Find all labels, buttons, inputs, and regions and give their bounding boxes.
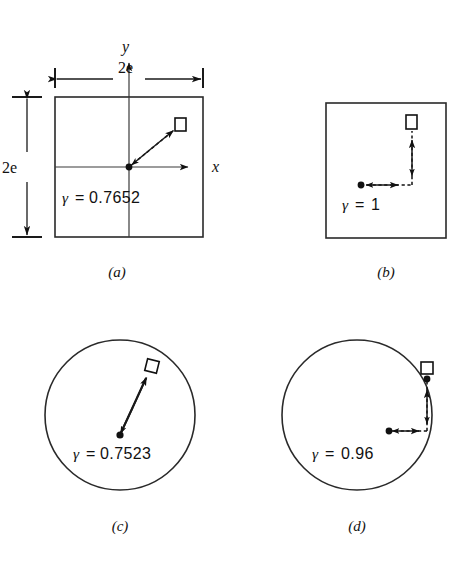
panel-a-dim-height-label: 2e xyxy=(2,159,17,176)
panel-c-tolerance-circle xyxy=(45,340,195,490)
panel-d-tolerance-circle xyxy=(282,340,432,490)
panel-b: γ = 1 (b) xyxy=(326,103,446,281)
panel-c: γ = 0.7523 (c) xyxy=(45,340,195,535)
panel-b-caption: (b) xyxy=(377,264,395,281)
panel-c-arrowhead-in xyxy=(121,407,134,434)
panel-a-gamma-label: γ = 0.7652 xyxy=(62,189,140,206)
figure-root: x y 2e 2e γ = 0.7652 (a) xyxy=(0,0,470,572)
panel-a-gamma-value: 0.7652 xyxy=(89,189,140,206)
panel-a-arrowhead-out xyxy=(152,131,174,149)
panel-c-gamma-label: γ = 0.7523 xyxy=(73,445,151,462)
panel-c-gamma-value: 0.7523 xyxy=(100,445,151,462)
panel-c-vector xyxy=(120,378,147,436)
panel-c-caption: (c) xyxy=(112,518,129,535)
panel-a-target-square xyxy=(175,118,186,131)
panel-d-gamma-equals: = xyxy=(325,445,335,462)
panel-b-vector xyxy=(361,131,412,185)
panel-a-arrowhead-in xyxy=(132,148,153,165)
panel-b-gamma-value: 1 xyxy=(371,196,380,213)
panel-d-gamma-symbol: γ xyxy=(312,445,319,462)
panel-b-gamma-equals: = xyxy=(355,196,365,213)
panel-d-vector xyxy=(389,382,427,431)
panel-c-origin-dot xyxy=(116,431,123,438)
panel-b-target-square xyxy=(406,115,417,129)
panel-b-origin-dot xyxy=(358,182,365,189)
panel-c-target-square xyxy=(145,359,160,374)
panel-a-dim-width-label: 2e xyxy=(118,59,133,76)
panel-c-arrowhead-out xyxy=(133,378,147,408)
panel-d-target-dot xyxy=(424,376,431,383)
panel-a-gamma-symbol: γ xyxy=(62,189,69,206)
panel-a-y-axis-label: y xyxy=(120,38,130,56)
panel-a-caption: (a) xyxy=(108,264,126,281)
panel-d-target-square xyxy=(421,362,433,374)
panel-d-caption: (d) xyxy=(348,518,366,535)
panel-a: x y 2e 2e γ = 0.7652 (a) xyxy=(2,38,219,281)
panel-b-gamma-symbol: γ xyxy=(342,196,349,213)
panel-c-gamma-equals: = xyxy=(86,445,96,462)
panel-d-gamma-label: γ = 0.96 xyxy=(312,445,374,462)
panel-a-x-axis-label: x xyxy=(211,158,219,175)
panel-d-origin-dot xyxy=(386,428,393,435)
panel-a-gamma-equals: = xyxy=(75,189,85,206)
panel-d: γ = 0.96 (d) xyxy=(282,340,433,535)
panel-a-vector xyxy=(129,131,174,168)
panel-a-origin-dot xyxy=(126,164,133,171)
panel-b-tolerance-square xyxy=(326,103,446,238)
figure-canvas: x y 2e 2e γ = 0.7652 (a) xyxy=(0,0,470,572)
panel-c-target-square-group xyxy=(145,359,160,374)
panel-d-gamma-value: 0.96 xyxy=(341,445,374,462)
panel-c-gamma-symbol: γ xyxy=(73,445,80,462)
panel-b-gamma-label: γ = 1 xyxy=(342,196,380,213)
